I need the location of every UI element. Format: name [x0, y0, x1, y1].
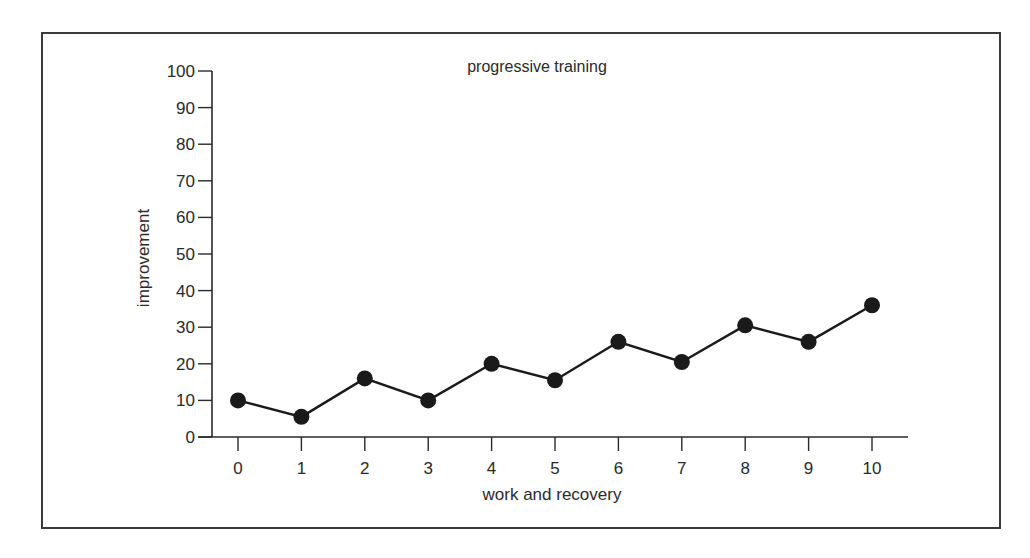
series-line — [238, 305, 872, 417]
y-tick-label: 60 — [176, 208, 195, 227]
x-tick-label: 6 — [614, 459, 623, 478]
data-point — [420, 392, 436, 408]
y-axis-label: improvement — [134, 209, 153, 308]
x-tick-label: 9 — [804, 459, 813, 478]
x-tick-label: 2 — [360, 459, 369, 478]
x-tick-label: 5 — [550, 459, 559, 478]
data-point — [230, 392, 246, 408]
y-tick-label: 40 — [176, 282, 195, 301]
x-tick-label: 7 — [677, 459, 686, 478]
data-point — [610, 334, 626, 350]
data-point — [674, 354, 690, 370]
data-point — [357, 370, 373, 386]
data-point — [737, 317, 753, 333]
data-point — [547, 372, 563, 388]
y-tick-label: 20 — [176, 355, 195, 374]
x-tick-label: 4 — [487, 459, 496, 478]
x-tick-label: 8 — [740, 459, 749, 478]
line-chart: progressive training improvement work an… — [0, 0, 1030, 558]
x-tick-label: 10 — [863, 459, 882, 478]
data-series — [230, 297, 880, 425]
x-axis: 012345678910 — [198, 437, 908, 478]
y-tick-label: 30 — [176, 318, 195, 337]
y-tick-label: 0 — [186, 428, 195, 447]
chart-title: progressive training — [467, 58, 607, 75]
x-tick-label: 1 — [297, 459, 306, 478]
y-tick-label: 10 — [176, 391, 195, 410]
x-tick-label: 0 — [233, 459, 242, 478]
y-tick-label: 80 — [176, 135, 195, 154]
y-tick-label: 100 — [167, 62, 195, 81]
x-tick-label: 3 — [423, 459, 432, 478]
data-point — [484, 356, 500, 372]
y-axis: 0102030405060708090100 — [167, 62, 212, 447]
y-tick-label: 50 — [176, 245, 195, 264]
x-axis-label: work and recovery — [482, 485, 622, 504]
data-point — [801, 334, 817, 350]
data-point — [864, 297, 880, 313]
data-point — [293, 409, 309, 425]
y-tick-label: 70 — [176, 172, 195, 191]
y-tick-label: 90 — [176, 99, 195, 118]
